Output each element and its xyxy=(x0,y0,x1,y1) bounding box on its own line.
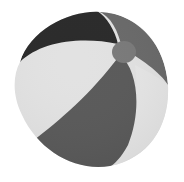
beach-ball-image xyxy=(0,0,184,182)
ball-body xyxy=(0,0,184,182)
beach-ball-illustration xyxy=(0,0,184,182)
